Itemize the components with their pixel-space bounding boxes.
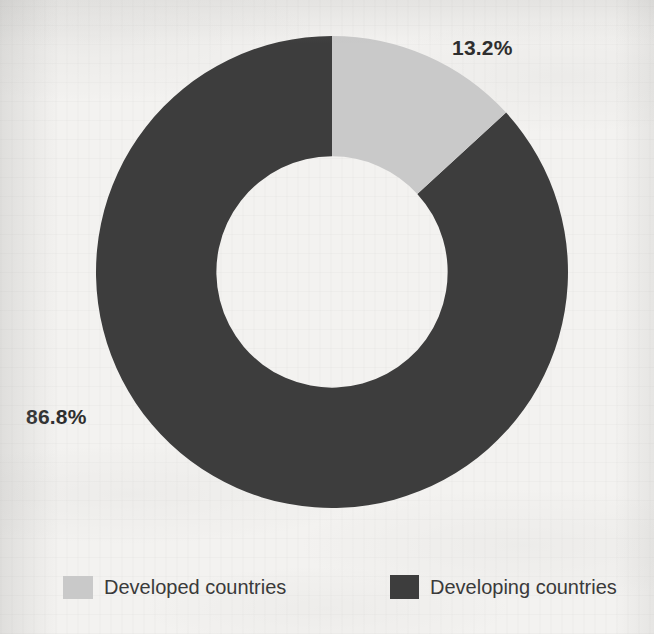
- legend-swatch-icon: [63, 576, 93, 599]
- legend-item-developed-countries[interactable]: Developed countries: [63, 572, 286, 602]
- data-label-developing-countries: 86.8%: [26, 405, 87, 429]
- legend-item-label: Developing countries: [430, 576, 617, 599]
- donut-chart-svg: [0, 0, 654, 634]
- chart-figure: 13.2% 86.8% Developed countries Developi…: [0, 0, 654, 634]
- donut-chart: [0, 0, 654, 634]
- legend-item-label: Developed countries: [104, 576, 286, 599]
- legend-item-developing-countries[interactable]: Developing countries: [390, 572, 617, 602]
- data-label-developed-countries: 13.2%: [452, 36, 513, 60]
- chart-legend: Developed countries Developing countries: [0, 572, 654, 612]
- legend-swatch-icon: [390, 575, 419, 599]
